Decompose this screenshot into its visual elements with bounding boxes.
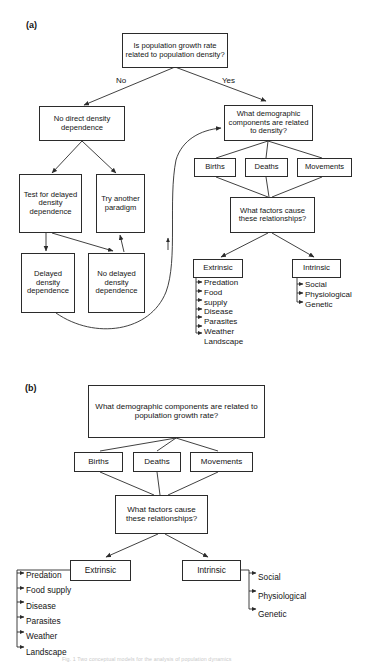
node-a-no-delayed-density-dependence: No delayed density dependence [88, 253, 145, 313]
node-a-extrinsic: Extrinsic [193, 259, 243, 278]
list-item: Disease [26, 599, 71, 614]
node-a-try-another-paradigm: Try another paradigm [96, 174, 145, 233]
list-item: Parasites [204, 317, 243, 327]
list-b-intrinsic-factors: Social Physiological Genetic [258, 568, 306, 624]
node-b-deaths: Deaths [133, 452, 181, 472]
node-b-intrinsic: Intrinsic [182, 560, 241, 581]
node-b-movements: Movements [190, 452, 253, 472]
node-a-deaths: Deaths [245, 158, 288, 177]
node-b-what-factors: What factors cause these relationships? [115, 495, 208, 534]
list-item: supply [204, 298, 243, 308]
list-item: Landscape [204, 337, 243, 347]
list-item: Food [204, 288, 243, 298]
list-item: Physiological [305, 290, 352, 300]
edge-label-no: No [116, 76, 126, 85]
list-b-extrinsic-factors: Predation Food supply Disease Parasites … [26, 568, 71, 660]
list-item: Food supply [26, 583, 71, 598]
list-item: Social [305, 280, 352, 290]
node-a-test-for-delayed-density-dependence: Test for delayed density dependence [19, 174, 82, 233]
list-item: Predation [204, 278, 243, 288]
node-a-what-factors: What factors cause these relationships? [230, 197, 315, 233]
edge-label-yes: Yes [222, 76, 235, 85]
list-item: Predation [26, 568, 71, 583]
list-a-intrinsic-factors: Social Physiological Genetic [305, 280, 352, 309]
figure-container: (a) Is population growth rate related to… [0, 0, 377, 666]
node-a-movements: Movements [297, 158, 352, 177]
panel-a-label: (a) [26, 20, 37, 30]
list-item: Physiological [258, 587, 306, 606]
node-a-intrinsic: Intrinsic [292, 259, 341, 278]
list-item: Parasites [26, 614, 71, 629]
list-item: Disease [204, 307, 243, 317]
node-a-demographic-components: What demographic components are related … [224, 105, 313, 141]
list-item: Weather [26, 629, 71, 644]
node-a-root: Is population growth rate related to pop… [122, 33, 228, 68]
figure-caption: Fig. 1 Two conceptual models for the ana… [62, 656, 232, 662]
node-a-births: Births [194, 158, 236, 177]
list-item: Genetic [305, 300, 352, 310]
node-b-root: What demographic components are related … [88, 385, 265, 438]
node-a-delayed-density-dependence: Delayed density dependence [21, 253, 75, 313]
panel-b-label: (b) [25, 383, 37, 393]
node-a-no-direct-density-dependence: No direct density dependence [39, 106, 125, 141]
list-item: Genetic [258, 605, 306, 624]
node-b-births: Births [74, 452, 123, 472]
node-b-extrinsic: Extrinsic [70, 560, 131, 581]
list-item: Social [258, 568, 306, 587]
list-a-extrinsic-factors: Predation Food supply Disease Parasites … [204, 278, 243, 346]
list-item: Weather [204, 327, 243, 337]
